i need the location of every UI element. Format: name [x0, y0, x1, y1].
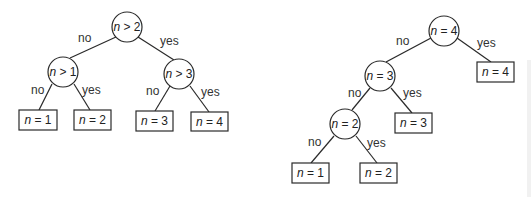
svg-text:n = 4: n = 4 [430, 24, 457, 38]
leaf-node-4: n = 4 [477, 62, 514, 82]
edge-label: no [396, 34, 410, 48]
linear-decision-tree: no yes no yes no yes n = 4 n = 3 n = 2 n… [292, 16, 514, 183]
leaf-node-2: n = 2 [74, 110, 111, 130]
edge-root-to-l [70, 37, 116, 58]
edge-label: yes [82, 83, 101, 97]
svg-text:n > 2: n > 2 [113, 20, 140, 34]
decision-node-d2: n = 2 [330, 109, 360, 139]
decision-node-r: n > 3 [164, 59, 194, 89]
edge-label: yes [367, 136, 386, 150]
leaf-node-2: n = 2 [360, 163, 397, 183]
edge-label: no [348, 86, 362, 100]
decision-node-l: n > 1 [48, 57, 78, 87]
svg-text:n = 1: n = 1 [24, 113, 51, 127]
balanced-decision-tree: no yes no yes no yes n > 2 n > 1 n > 3 n… [19, 12, 228, 131]
decision-node-root: n = 4 [429, 16, 459, 46]
svg-text:n = 4: n = 4 [482, 65, 509, 79]
svg-text:n = 1: n = 1 [297, 166, 324, 180]
svg-text:n = 3: n = 3 [400, 116, 427, 130]
svg-text:n > 1: n > 1 [49, 65, 76, 79]
edge-label: no [308, 135, 322, 149]
leaf-node-1: n = 1 [19, 110, 57, 130]
svg-text:n = 2: n = 2 [365, 166, 392, 180]
edge-label: yes [201, 85, 220, 99]
leaf-node-1: n = 1 [292, 163, 329, 183]
svg-text:n = 3: n = 3 [141, 114, 168, 128]
diagram-canvas: no yes no yes no yes n > 2 n > 1 n > 3 n… [0, 0, 531, 197]
leaf-node-3: n = 3 [136, 111, 173, 131]
leaf-node-4: n = 4 [191, 112, 228, 131]
edge-label: no [31, 83, 45, 97]
edge-label: yes [477, 36, 496, 50]
svg-text:n = 2: n = 2 [79, 113, 106, 127]
edge-label: yes [403, 86, 422, 100]
leaf-node-3: n = 3 [395, 113, 432, 133]
decision-node-d3: n = 3 [365, 61, 395, 91]
decision-node-root: n > 2 [112, 12, 142, 42]
svg-text:n = 2: n = 2 [331, 117, 358, 131]
edge-label: no [78, 31, 92, 45]
svg-text:n = 3: n = 3 [366, 69, 393, 83]
edge-label: yes [160, 34, 179, 48]
svg-text:n = 4: n = 4 [196, 115, 223, 129]
svg-text:n > 3: n > 3 [165, 67, 192, 81]
edge-label: no [146, 84, 160, 98]
